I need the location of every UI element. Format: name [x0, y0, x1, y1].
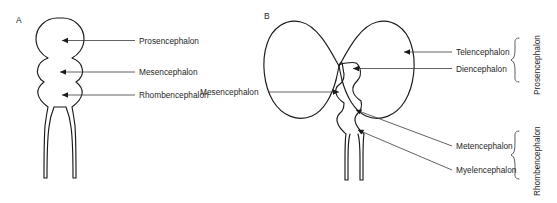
label-myelencephalon: Myelencephalon	[456, 166, 516, 174]
brain-vesicle-development-figure: A B Prosencephalon Mesencephalon Rhomben…	[0, 0, 557, 203]
label-rhombencephalon-a: Rhombencephalon	[139, 91, 209, 99]
panel-a-neural-tube-outline	[36, 18, 84, 178]
panel-b-leader-myelencephalon	[358, 130, 452, 170]
bracket-prosencephalon	[511, 38, 519, 82]
panel-a-leader-mesencephalon	[60, 69, 135, 74]
label-mesencephalon-a: Mesencephalon	[139, 68, 198, 76]
panel-b-leader-diencephalon	[353, 66, 452, 71]
panel-b-right-hemisphere-outline	[339, 21, 414, 118]
panel-b-left-hemisphere-outline	[264, 21, 339, 118]
label-prosencephalon-a: Prosencephalon	[139, 37, 199, 45]
label-telencephalon: Telencephalon	[456, 48, 510, 56]
panel-a-leader-rhombencephalon	[62, 92, 135, 97]
panel-b-brainstem-left-wall	[336, 63, 350, 180]
label-metencephalon: Metencephalon	[456, 142, 513, 150]
panel-a-leader-prosencephalon	[62, 38, 135, 43]
panel-letter-b: B	[264, 12, 270, 21]
panel-b-leader-mesencephalon	[268, 89, 339, 94]
label-diencephalon: Diencephalon	[456, 65, 507, 73]
bracket-label-rhombencephalon: Rhombencephalon	[533, 126, 541, 196]
bracket-label-prosencephalon: Prosencephalon	[533, 35, 541, 95]
panel-b-leader-metencephalon	[356, 110, 452, 146]
panel-b-leader-telencephalon	[404, 49, 452, 54]
panel-letter-a: A	[16, 16, 22, 25]
label-mesencephalon-b: Mesencephalon	[200, 88, 259, 96]
